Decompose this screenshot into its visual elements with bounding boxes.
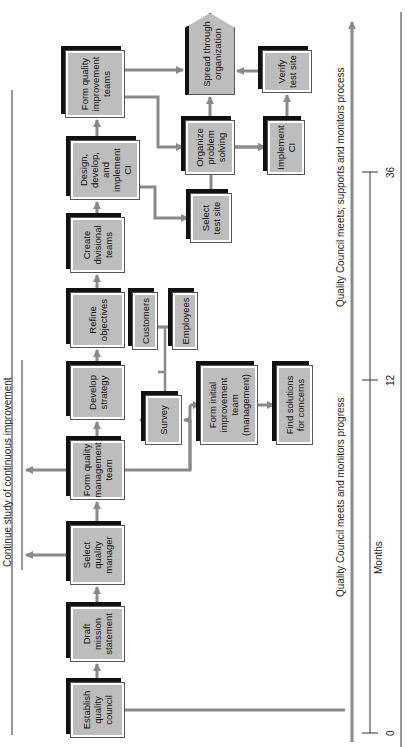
tqm-implementation-diagram: Establish quality council Draft mission … <box>0 0 407 747</box>
box-label: Customers <box>140 298 151 344</box>
months-axis-label: Months <box>373 541 384 574</box>
box-select-quality-manager: Select quality manager <box>70 525 125 585</box>
continue-study-label: Continue study of continuous improvement <box>2 377 13 567</box>
box-label: Select test site <box>200 197 222 239</box>
box-label: Draft mission statement <box>81 610 114 658</box>
box-label: Implement CI <box>275 124 297 171</box>
tick-label-12: 12 <box>385 375 396 386</box>
box-verify-test-site: Verify test site <box>262 50 312 93</box>
box-draft-mission-statement: Draft mission statement <box>70 606 125 662</box>
box-form-quality-improvement-teams: Form quality improvement teams <box>65 50 125 118</box>
box-implement-ci: Implement CI <box>267 120 305 175</box>
box-establish-quality-council: Establish quality council <box>70 682 125 738</box>
box-select-test-site: Select test site <box>190 193 232 243</box>
box-label: Form initial improvement team (managemen… <box>207 369 251 441</box>
box-label: Select quality manager <box>81 529 114 581</box>
box-label: Organize problem solving <box>194 124 227 171</box>
box-label: Verify test site <box>276 54 298 89</box>
box-survey: Survey <box>145 395 182 445</box>
box-find-solutions-for-concerns: Find solutions for concerns <box>276 365 313 445</box>
box-label: Form quality improvement teams <box>79 54 112 114</box>
box-create-divisional-teams: Create divisional teams <box>70 217 125 273</box>
box-label: Refine objectives <box>87 296 109 344</box>
box-label: Design, develop, and implement CI <box>78 144 133 196</box>
box-refine-objectives: Refine objectives <box>70 292 125 348</box>
box-customers: Customers <box>132 292 158 350</box>
box-label: Survey <box>158 405 169 435</box>
council-progress-label: Quality Council meets and monitors progr… <box>335 397 346 597</box>
box-form-initial-improvement-team: Form initial improvement team (managemen… <box>200 365 258 445</box>
box-label: Establish quality council <box>81 686 114 734</box>
tick-label-0: 0 <box>385 730 396 736</box>
council-supports-label: Quality Council meets; supports and moni… <box>335 67 346 307</box>
box-label: Employees <box>180 298 191 345</box>
box-label: Find solutions for concerns <box>284 369 306 441</box>
box-spread-through-organization: Spread through organization <box>185 13 235 95</box>
box-label: Spread through organization <box>201 17 223 91</box>
box-develop-strategy: Develop strategy <box>70 365 125 420</box>
tick-label-36: 36 <box>385 167 396 178</box>
box-label: Develop strategy <box>87 369 109 416</box>
box-organize-problem-solving: Organize problem solving <box>185 120 235 175</box>
box-design-develop-implement-ci: Design, develop, and implement CI <box>70 140 140 200</box>
box-label: Form quality management team <box>81 442 114 497</box>
box-form-quality-management-team: Form quality management team <box>70 440 125 500</box>
box-label: Create divisional teams <box>81 221 114 269</box>
box-employees: Employees <box>172 292 198 350</box>
